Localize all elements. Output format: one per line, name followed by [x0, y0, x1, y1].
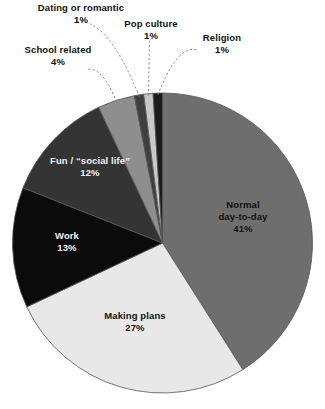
slice-label-religion: Religion 1% [178, 32, 266, 56]
slice-label-name: Religion [178, 32, 266, 44]
pie-chart: Dating or romantic 1% Pop culture 1% Rel… [0, 0, 325, 409]
leader-line-pop-culture [149, 39, 150, 95]
slice-label-value: 13% [21, 242, 113, 254]
slice-label-name-line1: Normal [188, 199, 298, 211]
slice-label-value: 27% [77, 322, 193, 334]
leader-line-school-related [86, 69, 117, 102]
slice-label-name-line2: day-to-day [188, 211, 298, 223]
slice-label-work: Work 13% [21, 230, 113, 254]
slice-label-value: 4% [0, 56, 118, 68]
slice-label-value: 41% [188, 223, 298, 235]
slice-label-name: School related [0, 44, 118, 56]
slice-label-normal-day-to-day: Normal day-to-day 41% [188, 199, 298, 235]
slice-label-name: Work [21, 230, 113, 242]
slice-label-fun-social-life: Fun / “social life” 12% [28, 155, 152, 179]
slice-label-name: Dating or romantic [6, 2, 156, 14]
slice-label-name: Fun / “social life” [28, 155, 152, 167]
leader-line-religion [158, 49, 197, 95]
slice-label-school-related: School related 4% [0, 44, 118, 68]
slice-label-value: 12% [28, 167, 152, 179]
slice-label-name: Pop culture [106, 18, 196, 30]
slice-label-making-plans: Making plans 27% [77, 310, 193, 334]
slice-label-value: 1% [178, 44, 266, 56]
slice-label-name: Making plans [77, 310, 193, 322]
